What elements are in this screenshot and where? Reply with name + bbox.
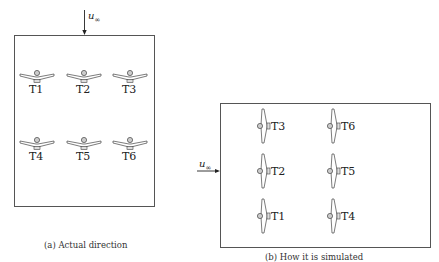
caption-b: (b) How it is simulated [265, 252, 363, 262]
turbine-t5: T5 [327, 153, 367, 189]
turbine-label: T4 [341, 211, 355, 222]
turbine-t4: T4 [19, 136, 55, 166]
turbine-t3: T3 [112, 69, 148, 99]
turbine-label: T5 [341, 166, 355, 177]
turbine-label: T6 [341, 121, 355, 132]
wind-turbine-icon [66, 69, 102, 83]
turbine-t6: T6 [112, 136, 148, 166]
wind-turbine-icon [112, 69, 148, 83]
wind-turbine-icon [66, 136, 102, 150]
turbine-t4: T4 [327, 198, 367, 234]
turbine-label: T3 [122, 84, 136, 95]
turbine-t5: T5 [66, 136, 102, 166]
turbine-label: T6 [122, 151, 136, 162]
turbine-label: T4 [29, 151, 43, 162]
turbine-label: T2 [76, 84, 90, 95]
turbine-t3: T3 [257, 108, 297, 144]
turbine-t2: T2 [66, 69, 102, 99]
turbine-t6: T6 [327, 108, 367, 144]
wind-turbine-icon [19, 69, 55, 83]
wind-turbine-icon [112, 136, 148, 150]
caption-a: (a) Actual direction [44, 240, 127, 250]
turbine-label: T1 [271, 211, 285, 222]
flow-label: u∞ [88, 10, 100, 24]
domain-box-b [220, 103, 431, 248]
turbine-label: T1 [29, 84, 43, 95]
turbine-t2: T2 [257, 153, 297, 189]
wind-turbine-icon [19, 136, 55, 150]
turbine-label: T5 [76, 151, 90, 162]
turbine-t1: T1 [19, 69, 55, 99]
turbine-t1: T1 [257, 198, 297, 234]
flow-arrow-icon [197, 168, 221, 174]
turbine-label: T3 [271, 121, 285, 132]
domain-box-a [14, 35, 155, 207]
turbine-label: T2 [271, 166, 285, 177]
